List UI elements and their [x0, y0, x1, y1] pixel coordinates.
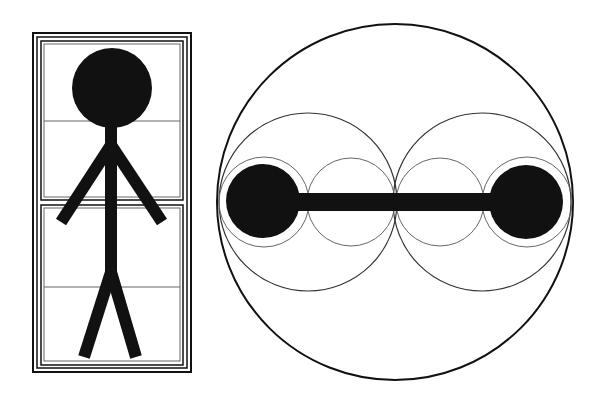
- dumbbell-disk-right: [489, 165, 563, 239]
- diagram-canvas: [0, 0, 598, 405]
- stick-figure-head: [72, 48, 152, 128]
- dumbbell-disk-left: [226, 164, 300, 238]
- dumbbell-bar: [262, 193, 528, 211]
